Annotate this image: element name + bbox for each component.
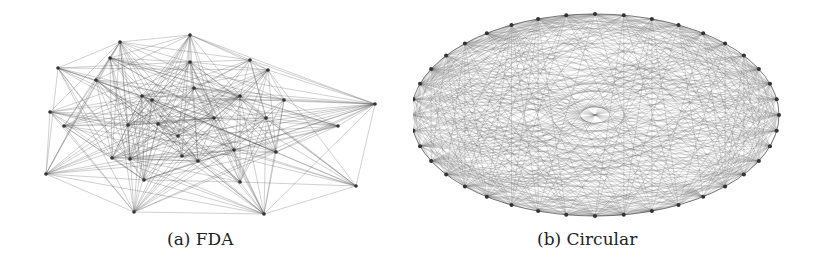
- graph-node: [132, 210, 136, 214]
- graph-node: [677, 23, 681, 27]
- graph-node: [418, 82, 422, 86]
- graph-node: [485, 195, 489, 199]
- graph-node: [180, 154, 184, 158]
- edges: [46, 35, 375, 214]
- graph-node: [775, 97, 779, 101]
- graph-node: [126, 123, 130, 127]
- graph-node: [775, 129, 779, 133]
- graph-node: [677, 203, 681, 207]
- graph-node: [156, 122, 160, 126]
- graph-node: [232, 148, 236, 152]
- graph-node: [650, 209, 654, 213]
- graph-node: [510, 23, 514, 27]
- graph-node: [418, 144, 422, 148]
- graph-node: [593, 214, 597, 218]
- graph-node: [354, 184, 358, 188]
- graph-node: [373, 102, 377, 106]
- graph-node: [142, 178, 146, 182]
- graph-node: [274, 150, 278, 154]
- fda-graph-drawing: [0, 0, 413, 225]
- graph-node: [650, 17, 654, 21]
- graph-node: [564, 213, 568, 217]
- graph-node: [757, 67, 761, 71]
- graph-node: [510, 203, 514, 207]
- graph-node: [593, 12, 597, 16]
- graph-node: [238, 94, 242, 98]
- graph-node: [536, 17, 540, 21]
- graph-node: [118, 40, 122, 44]
- graph-node: [48, 110, 52, 114]
- graph-node: [463, 184, 467, 188]
- graph-node: [128, 157, 132, 161]
- panel-circular: (b) Circular: [413, 0, 826, 272]
- graph-node: [150, 98, 154, 102]
- graph-node: [238, 180, 242, 184]
- graph-node: [444, 172, 448, 176]
- graph-node: [282, 98, 286, 102]
- graph-node: [622, 213, 626, 217]
- graph-node: [701, 195, 705, 199]
- graph-node: [192, 86, 196, 90]
- graph-node: [94, 78, 98, 82]
- graph-node: [723, 184, 727, 188]
- graph-node: [463, 42, 467, 46]
- graph-node: [777, 113, 781, 117]
- graph-node: [264, 116, 268, 120]
- graph-node: [701, 31, 705, 35]
- graph-node: [336, 124, 340, 128]
- graph-node: [485, 31, 489, 35]
- graph-node: [768, 82, 772, 86]
- graph-node: [140, 94, 144, 98]
- graph-node: [742, 172, 746, 176]
- graph-node: [444, 54, 448, 58]
- graph-node: [742, 54, 746, 58]
- graph-node: [757, 159, 761, 163]
- caption-circular: (b) Circular: [537, 229, 637, 249]
- graph-node: [212, 116, 216, 120]
- graph-node: [266, 68, 270, 72]
- graph-node: [723, 42, 727, 46]
- graph-node: [56, 66, 60, 70]
- graph-node: [564, 13, 568, 17]
- graph-node: [110, 156, 114, 160]
- graph-node: [536, 209, 540, 213]
- graph-node: [262, 212, 266, 216]
- graph-node: [768, 144, 772, 148]
- graph-node: [429, 159, 433, 163]
- graph-node: [62, 124, 66, 128]
- graph-node: [248, 58, 252, 62]
- caption-fda: (a) FDA: [167, 229, 234, 249]
- graph-node: [188, 60, 192, 64]
- graph-node: [196, 159, 200, 163]
- panel-fda: (a) FDA: [0, 0, 413, 272]
- graph-node: [622, 13, 626, 17]
- graph-node: [44, 172, 48, 176]
- circular-graph-drawing: [413, 0, 826, 225]
- graph-node: [108, 56, 112, 60]
- graph-node: [176, 134, 180, 138]
- graph-node: [429, 67, 433, 71]
- graph-node: [188, 33, 192, 37]
